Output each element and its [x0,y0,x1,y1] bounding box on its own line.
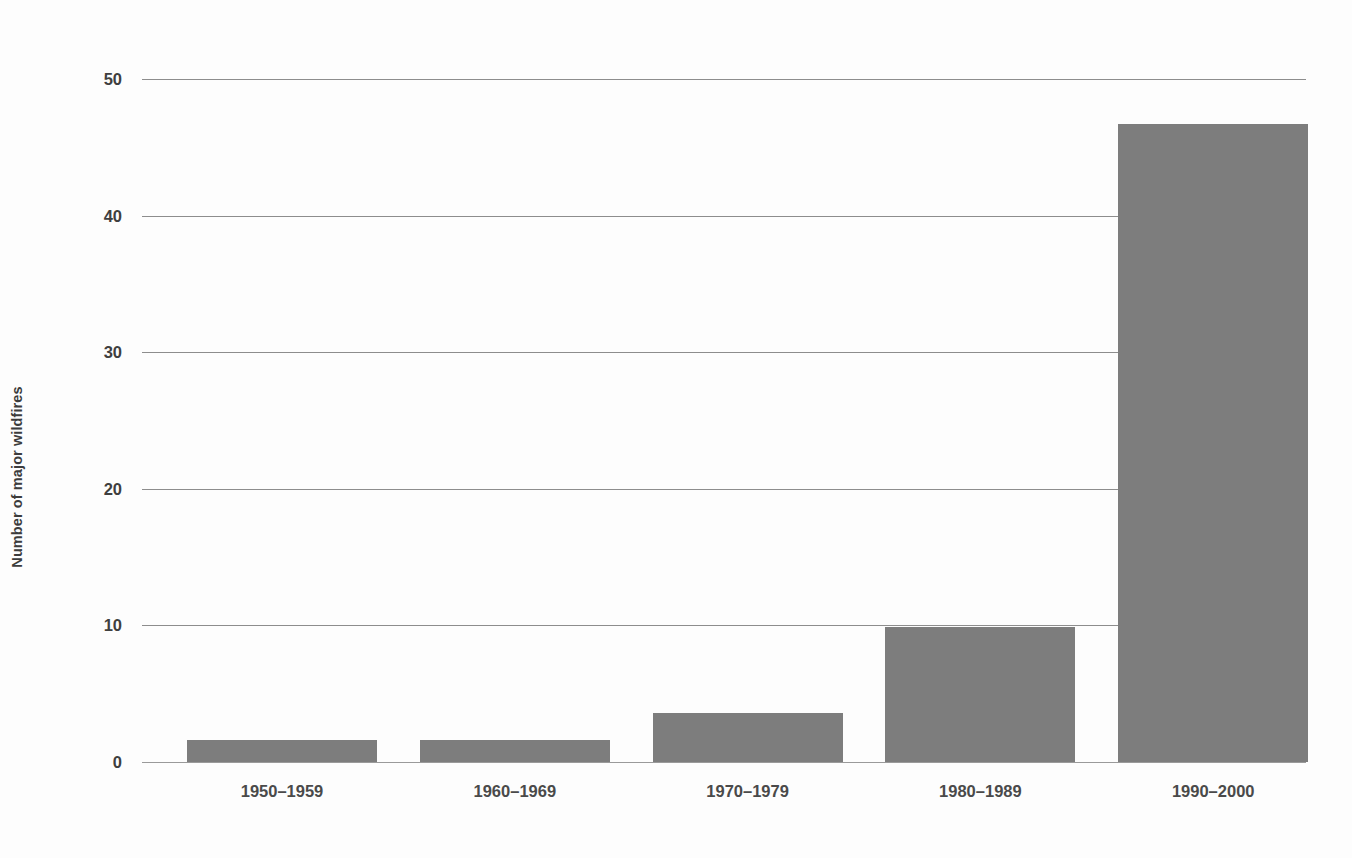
x-tick-label: 1960–1969 [474,783,557,800]
bar [1118,124,1308,762]
y-tick-label: 40 [104,207,122,224]
x-tick-label: 1970–1979 [706,783,789,800]
y-tick-label: 0 [113,754,122,771]
y-tick-label: 10 [104,617,122,634]
y-tick-label: 20 [104,481,122,498]
y-axis-title: Number of major wildfires [0,0,34,858]
y-tick-label: 50 [104,71,122,88]
y-axis-title-label: Number of major wildfires [9,386,25,567]
bar [187,740,377,762]
plot-area: 50403020100 [142,79,1306,762]
bar [420,740,610,762]
bars [142,79,1306,762]
gridline-0 [142,762,1306,763]
bar [653,713,843,762]
x-tick-label: 1950–1959 [241,783,324,800]
y-tick-label: 30 [104,344,122,361]
bar [885,627,1075,762]
x-axis-tick-labels: 1950–19591960–19691970–19791980–19891990… [142,783,1306,813]
x-tick-label: 1980–1989 [939,783,1022,800]
bar-chart: Number of major wildfires 50403020100 19… [0,0,1352,858]
x-tick-label: 1990–2000 [1172,783,1255,800]
